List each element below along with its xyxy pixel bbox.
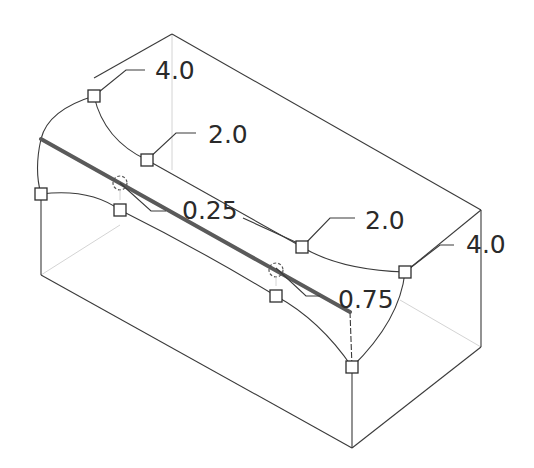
- radius-handle-2[interactable]: [141, 154, 153, 166]
- radius-label-2[interactable]: 2.0: [208, 120, 248, 149]
- radius-handle-4[interactable]: [114, 204, 126, 216]
- radius-handle-8[interactable]: [346, 361, 358, 373]
- radius-label-1[interactable]: 4.0: [155, 56, 195, 85]
- radius-handle-6[interactable]: [399, 266, 411, 278]
- block-edges: [41, 34, 481, 448]
- radius-handle-7[interactable]: [270, 290, 282, 302]
- radius-label-3[interactable]: 2.0: [365, 206, 405, 235]
- selected-edge[interactable]: [41, 139, 350, 312]
- position-label-1[interactable]: 0.25: [182, 196, 238, 225]
- position-label-2[interactable]: 0.75: [338, 285, 394, 314]
- radius-label-4[interactable]: 4.0: [466, 230, 506, 259]
- radius-handle-1[interactable]: [88, 90, 100, 102]
- radius-handle-5[interactable]: [296, 241, 308, 253]
- radius-handle-3[interactable]: [35, 188, 47, 200]
- block-diagram: 4.0 2.0 2.0 4.0 0.25 0.75: [0, 0, 534, 468]
- leader-lines: [94, 70, 454, 296]
- hidden-edges: [41, 34, 481, 347]
